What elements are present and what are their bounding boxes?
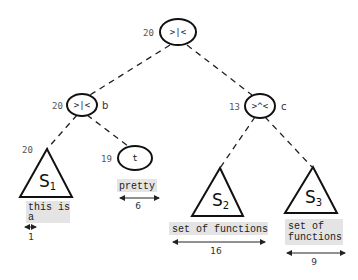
leaf-t-text: pretty 6 xyxy=(117,179,159,211)
node-operator: >^< xyxy=(252,101,269,111)
node-t: 19 t xyxy=(101,146,152,170)
edge-c-s3 xyxy=(265,117,312,167)
node-operator: >|< xyxy=(74,100,91,110)
node-operator: t xyxy=(132,153,137,163)
node-root: 20 >|< xyxy=(143,19,196,45)
subtree-s3: S3 set of functions 9 xyxy=(285,167,345,267)
edge-b-s1 xyxy=(47,115,77,149)
measure-value: 16 xyxy=(210,246,222,256)
subtree-text-line: this is xyxy=(28,202,70,213)
subtree-s2: S2 set of functions 16 xyxy=(169,168,268,256)
subtree-text-line: functions xyxy=(288,232,342,243)
leaf-text: pretty xyxy=(119,181,155,192)
measure-value: 9 xyxy=(311,257,317,267)
node-name: b xyxy=(102,100,108,111)
node-weight: 13 xyxy=(229,102,240,112)
node-c: 13 >^< c xyxy=(229,94,287,118)
subtree-weight: 20 xyxy=(22,145,33,155)
tree-diagram: 20 >|< 20 >|< b 13 >^< c 19 t pretty 6 2… xyxy=(0,0,358,280)
node-weight: 20 xyxy=(52,101,63,111)
measure-value: 6 xyxy=(135,201,141,211)
subtree-text-line: set of functions xyxy=(172,224,268,235)
node-weight: 19 xyxy=(101,154,112,164)
node-name: c xyxy=(281,101,287,112)
measure-value: 1 xyxy=(28,232,34,242)
node-weight: 20 xyxy=(143,28,154,38)
node-b: 20 >|< b xyxy=(52,94,108,116)
edge-b-t xyxy=(87,115,128,146)
edge-root-c xyxy=(187,45,252,95)
subtree-text-line: set of xyxy=(288,221,324,232)
subtree-text-line: a xyxy=(28,212,34,223)
node-operator: >|< xyxy=(170,27,187,37)
edge-c-s2 xyxy=(220,117,255,168)
subtree-s1: 20 S1 this is a 1 xyxy=(20,145,72,242)
edge-root-b xyxy=(90,45,170,95)
